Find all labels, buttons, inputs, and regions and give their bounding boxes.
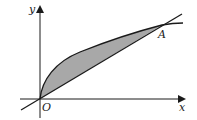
x-axis-label: x: [179, 101, 186, 114]
origin-label: O: [42, 101, 51, 114]
point-a-label: A: [157, 28, 166, 41]
y-axis-label: y: [28, 3, 36, 16]
diagram-canvas: y x O A: [0, 0, 197, 120]
